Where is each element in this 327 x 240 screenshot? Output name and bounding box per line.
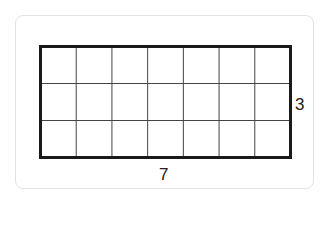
rectangle-grid	[39, 45, 292, 159]
grid-svg	[39, 45, 292, 159]
grid-outer-border	[41, 47, 291, 158]
width-label: 7	[159, 166, 168, 183]
height-label: 3	[295, 96, 304, 113]
